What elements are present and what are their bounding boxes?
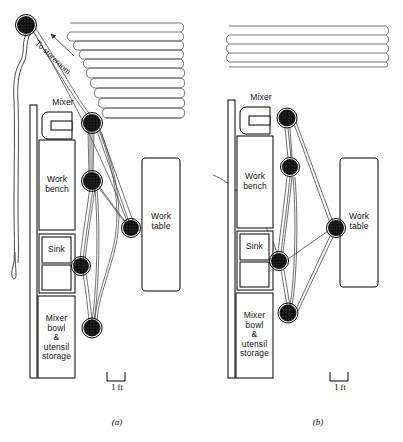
work-bench-label-b: Work bench (236, 172, 274, 191)
panel-caption-b: (b) (295, 417, 341, 427)
work-bench-label-line2: bench (243, 181, 267, 191)
storage-label-line5: storage (240, 348, 269, 358)
serpentine-path-a (67, 23, 184, 118)
figure-canvas: To storeroom Mixer Work bench Sink Mixer… (0, 0, 403, 442)
scale-label-b: 1 ft (325, 382, 355, 392)
wall-a (30, 105, 37, 378)
work-bench-label-line2: bench (45, 184, 69, 194)
storage-label-line1: Mixer (46, 313, 67, 323)
mixer-shape-a (42, 112, 72, 139)
storage-label-line1: Mixer (244, 310, 265, 320)
storage-label-line3: & (252, 329, 258, 339)
storage-label-line5: storage (42, 351, 71, 361)
work-table-label-line2: table (350, 221, 369, 231)
mixer-shape-b (240, 107, 270, 134)
sink-shape-a (39, 234, 75, 293)
work-table-label-a: Work table (142, 212, 180, 231)
work-table-label-line2: table (152, 221, 171, 231)
scale-bar-a (107, 372, 125, 381)
storeroom-loop-path-a (12, 30, 31, 279)
work-table-label-line1: Work (349, 211, 369, 221)
storage-label-a: Mixer bowl & utensil storage (38, 314, 75, 362)
serpentine-path-b (226, 26, 388, 67)
scale-label-a: 1 ft (102, 382, 132, 392)
sink-label-a: Sink (42, 245, 71, 255)
storage-label-line3: & (54, 332, 60, 342)
mixer-label-b: Mixer (240, 93, 282, 103)
storage-label-line2: bowl (246, 320, 264, 330)
travel-lines-b (278, 122, 333, 311)
panel-caption-a: (a) (94, 417, 140, 427)
storage-label-b: Mixer bowl & utensil storage (236, 311, 273, 359)
storage-label-line4: utensil (44, 342, 69, 352)
work-table-label-line1: Work (151, 211, 171, 221)
work-bench-label-a: Work bench (38, 175, 76, 194)
sink-shape-b (237, 231, 273, 290)
storage-label-line4: utensil (242, 339, 267, 349)
scale-bar-b (330, 372, 348, 381)
wall-b (228, 100, 235, 378)
storage-label-line2: bowl (48, 323, 66, 333)
mixer-label-a: Mixer (42, 98, 84, 108)
work-bench-label-line1: Work (245, 171, 265, 181)
sink-label-b: Sink (240, 242, 269, 252)
work-bench-label-line1: Work (47, 174, 67, 184)
work-table-label-b: Work table (340, 212, 378, 231)
